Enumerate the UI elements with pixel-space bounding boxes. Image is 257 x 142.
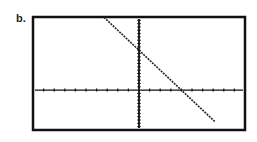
plotted-line xyxy=(104,17,215,122)
calculator-graph xyxy=(0,0,257,142)
